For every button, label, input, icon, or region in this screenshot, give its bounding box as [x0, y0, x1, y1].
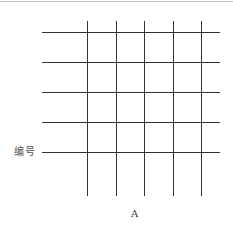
horizontal-grid-line	[42, 62, 220, 63]
column-label-a: A	[131, 208, 138, 220]
vertical-grid-line	[144, 21, 145, 196]
vertical-grid-line	[87, 21, 88, 196]
horizontal-grid-line	[42, 32, 220, 33]
top-border-rule	[0, 1, 233, 2]
vertical-grid-line	[201, 21, 202, 196]
vertical-grid-line	[173, 21, 174, 196]
row-label-number: 编号	[14, 146, 36, 158]
horizontal-grid-line	[42, 122, 220, 123]
vertical-grid-line	[116, 21, 117, 196]
horizontal-grid-line	[42, 152, 220, 153]
horizontal-grid-line	[42, 92, 220, 93]
